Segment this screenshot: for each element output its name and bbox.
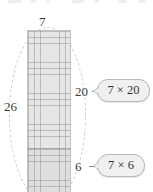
- label-width-top: 7: [39, 15, 46, 28]
- callout-bubble-upper: 7 × 20: [97, 79, 150, 102]
- clipped-top-artifacts: [0, 0, 153, 8]
- label-upper-segment: 20: [75, 85, 88, 98]
- callout-bubble-lower: 7 × 6: [97, 154, 145, 177]
- label-lower-segment: 6: [75, 160, 82, 173]
- grid-rectangle: [27, 30, 71, 192]
- rectangle-region-lower: [28, 149, 70, 192]
- rectangle-region-upper: [28, 31, 70, 149]
- callout-text-upper: 7 × 20: [107, 83, 139, 98]
- diagram-canvas: 7 26 20 6 7 × 20 7 × 6: [0, 0, 153, 192]
- callout-text-lower: 7 × 6: [108, 158, 134, 173]
- label-height-left: 26: [4, 100, 17, 113]
- region-divider-line: [27, 148, 71, 149]
